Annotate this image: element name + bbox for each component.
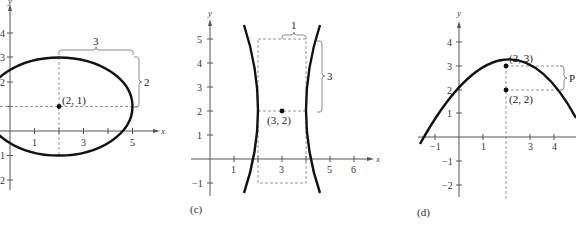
y-tick-label: −1 bbox=[442, 156, 453, 167]
y-tick-label: 3 bbox=[447, 61, 452, 72]
x-axis-arrow-icon bbox=[153, 129, 160, 133]
vertex-label: (2, 3) bbox=[509, 52, 533, 65]
brace-label-3: 3 bbox=[93, 35, 99, 47]
panel-ellipse: y x 1 3 5 4 3 2 1 2 (2, 1) 3 bbox=[0, 0, 165, 190]
brace-label-1: 1 bbox=[291, 19, 297, 31]
panel-hyperbola: y x 1 3 5 6 5 4 3 2 1 −1 ( bbox=[190, 8, 380, 216]
y-tick-label: 2 bbox=[0, 175, 5, 186]
parabola-curve bbox=[420, 59, 576, 144]
horizontal-brace bbox=[59, 47, 133, 55]
x-tick-label: 4 bbox=[552, 141, 557, 152]
center-label: (3, 2) bbox=[267, 114, 291, 127]
x-tick-label: 1 bbox=[231, 164, 236, 175]
caption-c: (c) bbox=[190, 203, 203, 216]
brace-label-3: 3 bbox=[327, 70, 333, 82]
x-tick-label: 3 bbox=[528, 141, 533, 152]
y-tick-label: 1 bbox=[447, 108, 452, 119]
y-axis-arrow-icon bbox=[208, 19, 212, 26]
y-tick-label: 3 bbox=[197, 82, 202, 93]
y-tick-label: 1 bbox=[0, 150, 5, 161]
x-tick-label: 3 bbox=[279, 164, 284, 175]
focus-label: (2, 2) bbox=[509, 93, 533, 106]
y-axis-label: y bbox=[456, 8, 461, 18]
x-tick-label: 1 bbox=[481, 141, 486, 152]
vertical-brace bbox=[134, 57, 142, 107]
x-tick-label: 5 bbox=[327, 164, 332, 175]
y-tick-label: 1 bbox=[197, 130, 202, 141]
x-axis-label: x bbox=[375, 154, 380, 164]
y-tick-label: 2 bbox=[197, 106, 202, 117]
y-tick-label: 3 bbox=[0, 52, 5, 63]
y-tick-label: −1 bbox=[192, 178, 203, 189]
y-tick-label: 5 bbox=[197, 34, 202, 45]
hyperbola-left-branch bbox=[244, 25, 258, 193]
center-label: (2, 1) bbox=[62, 94, 86, 107]
y-tick-label: −2 bbox=[442, 180, 453, 191]
y-axis-label: y bbox=[7, 0, 12, 6]
y-tick-label: 4 bbox=[0, 28, 5, 39]
center-point bbox=[280, 109, 285, 114]
y-axis-arrow-icon bbox=[457, 21, 461, 28]
conic-figure: y x 1 3 5 4 3 2 1 2 (2, 1) 3 bbox=[0, 0, 576, 226]
brace-label-p: P bbox=[569, 72, 575, 84]
x-axis-arrow-icon bbox=[367, 157, 374, 161]
hyperbola-right-branch bbox=[306, 25, 320, 193]
y-tick-label: 4 bbox=[447, 37, 452, 48]
y-tick-label: 2 bbox=[447, 85, 452, 96]
focus-point bbox=[504, 88, 509, 93]
panel-parabola: y −1 1 3 4 4 3 2 1 −1 −2 (2, 3) (2, bbox=[417, 8, 576, 219]
vertical-brace bbox=[317, 41, 325, 112]
center-point bbox=[57, 104, 62, 109]
brace-label-2: 2 bbox=[144, 76, 150, 88]
x-axis-label: x bbox=[160, 126, 165, 136]
vertex-point bbox=[504, 64, 509, 69]
x-tick-label: 6 bbox=[351, 164, 356, 175]
x-tick-label: −1 bbox=[430, 141, 441, 152]
y-tick-label: 4 bbox=[197, 58, 202, 69]
x-tick-label: 1 bbox=[32, 137, 37, 148]
vertical-brace bbox=[560, 66, 567, 90]
x-tick-label: 5 bbox=[130, 137, 135, 148]
x-tick-label: 3 bbox=[81, 137, 86, 148]
horizontal-brace bbox=[282, 32, 306, 39]
caption-d: (d) bbox=[417, 206, 430, 219]
y-tick-label: 2 bbox=[0, 77, 5, 88]
y-axis-label: y bbox=[207, 8, 212, 18]
